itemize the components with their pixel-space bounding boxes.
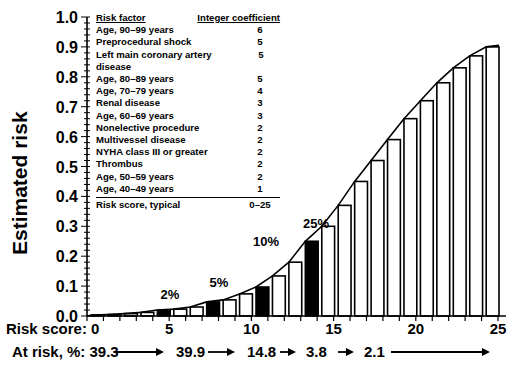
y-tick-label: 0.4 xyxy=(56,188,78,205)
bar xyxy=(355,181,368,316)
table-total-row: Risk score, typical0–25 xyxy=(96,197,280,211)
risk-factor-name: Age, 50–59 years xyxy=(96,171,174,183)
table-row: Age, 70–79 years4 xyxy=(96,85,280,97)
risk-annotation: 2% xyxy=(161,287,180,302)
table-header: Risk factor Integer coefficient xyxy=(96,12,280,24)
risk-factor-name: Renal disease xyxy=(96,97,160,109)
y-tick-label: 0.1 xyxy=(56,278,78,295)
risk-factor-name: Multivessel disease xyxy=(96,134,186,146)
risk-factor-table: Risk factor Integer coefficient Age, 90–… xyxy=(96,12,280,211)
at-risk-value: 39.9 xyxy=(176,343,205,360)
y-tick-label: 0.3 xyxy=(56,218,78,235)
table-row: NYHA class III or greater2 xyxy=(96,146,280,158)
header-coefficient: Integer coefficient xyxy=(197,12,280,24)
risk-factor-coefficient: 2 xyxy=(240,134,280,146)
x-axis-label: Risk score: 0 xyxy=(6,320,99,337)
bar xyxy=(240,294,253,316)
risk-annotation: 5% xyxy=(210,275,229,290)
table-row: Nonelective procedure2 xyxy=(96,122,280,134)
bar xyxy=(437,83,450,316)
bar xyxy=(338,205,351,316)
bar xyxy=(453,68,466,316)
risk-factor-name: Preprocedural shock xyxy=(96,36,191,48)
risk-factor-name: Age, 80–89 years xyxy=(96,73,174,85)
risk-factor-coefficient: 2 xyxy=(240,158,280,170)
x-tick-label: 5 xyxy=(165,320,173,337)
y-tick-label: 0.9 xyxy=(56,39,78,56)
bar xyxy=(470,56,483,316)
bar-highlighted xyxy=(157,310,170,316)
risk-factor-name: Left main coronary artery disease xyxy=(96,49,242,73)
table-row: Age, 90–99 years6 xyxy=(96,24,280,36)
at-risk-value: 14.8 xyxy=(247,343,276,360)
risk-factor-coefficient: 1 xyxy=(240,183,280,195)
x-tick-label: 15 xyxy=(325,320,342,337)
risk-factor-coefficient: 5 xyxy=(242,49,280,73)
table-row: Preprocedural shock5 xyxy=(96,36,280,48)
table-row: Multivessel disease2 xyxy=(96,134,280,146)
risk-annotation: 10% xyxy=(253,234,279,249)
at-risk-value: 2.1 xyxy=(364,343,385,360)
x-tick-label: 10 xyxy=(243,320,260,337)
bar xyxy=(322,226,335,316)
bar xyxy=(223,300,236,316)
risk-annotation: 25% xyxy=(303,216,329,231)
at-risk-value: 3.8 xyxy=(306,343,327,360)
risk-factor-coefficient: 5 xyxy=(240,73,280,85)
risk-factor-coefficient: 2 xyxy=(240,146,280,158)
table-row: Age, 80–89 years5 xyxy=(96,73,280,85)
bar xyxy=(272,276,285,316)
x-tick-label: 25 xyxy=(490,320,507,337)
y-tick-label: 0.8 xyxy=(56,69,78,86)
table-row: Renal disease3 xyxy=(96,97,280,109)
bar xyxy=(420,101,433,316)
header-risk-factor: Risk factor xyxy=(96,12,146,24)
risk-factor-coefficient: 2 xyxy=(240,171,280,183)
bar-highlighted xyxy=(305,241,318,316)
table-row: Thrombus2 xyxy=(96,158,280,170)
bar xyxy=(289,262,302,316)
y-tick-label: 1.0 xyxy=(56,9,78,26)
y-tick-label: 0.2 xyxy=(56,248,78,265)
risk-factor-coefficient: 5 xyxy=(240,36,280,48)
table-row: Left main coronary artery disease5 xyxy=(96,49,280,73)
risk-factor-coefficient: 3 xyxy=(240,97,280,109)
bar-highlighted xyxy=(256,287,269,316)
bar-highlighted xyxy=(207,302,220,316)
risk-factor-coefficient: 3 xyxy=(240,110,280,122)
risk-factor-name: Nonelective procedure xyxy=(96,122,199,134)
bar xyxy=(190,307,203,316)
bar xyxy=(388,140,401,316)
risk-factor-name: Age, 90–99 years xyxy=(96,24,174,36)
y-tick-label: 0.6 xyxy=(56,129,78,146)
at-risk-label: At risk, %: 39.3 xyxy=(12,343,119,360)
bar xyxy=(404,119,417,316)
y-tick-label: 0.5 xyxy=(56,159,78,176)
y-tick-label: 0.7 xyxy=(56,99,78,116)
risk-factor-name: Age, 60–69 years xyxy=(96,110,174,122)
table-row: Age, 60–69 years3 xyxy=(96,110,280,122)
risk-factor-coefficient: 6 xyxy=(240,24,280,36)
y-axis-label: Estimated risk xyxy=(8,111,32,255)
table-row: Age, 50–59 years2 xyxy=(96,171,280,183)
risk-factor-coefficient: 4 xyxy=(240,85,280,97)
risk-factor-coefficient: 0–25 xyxy=(240,199,280,211)
risk-factor-coefficient: 2 xyxy=(240,122,280,134)
bar xyxy=(174,309,187,316)
risk-factor-name: Risk score, typical xyxy=(96,199,180,211)
risk-factor-name: Age, 70–79 years xyxy=(96,85,174,97)
bar xyxy=(371,161,384,316)
risk-factor-name: Age, 40–49 years xyxy=(96,183,174,195)
x-tick-label: 20 xyxy=(407,320,424,337)
bar xyxy=(486,47,499,316)
risk-factor-name: NYHA class III or greater xyxy=(96,146,208,158)
risk-factor-name: Thrombus xyxy=(96,158,143,170)
table-row: Age, 40–49 years1 xyxy=(96,183,280,195)
